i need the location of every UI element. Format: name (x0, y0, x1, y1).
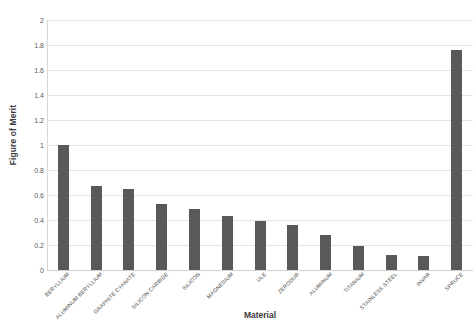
x-axis-tick-label-text: MAGNESIUM (206, 271, 235, 300)
bar (255, 221, 266, 270)
bar (418, 256, 429, 270)
bar (58, 145, 69, 270)
y-axis-tick-label: 0.8 (34, 167, 44, 174)
y-axis-tick-label: 0.4 (34, 217, 44, 224)
bar (451, 50, 462, 270)
bars-layer (47, 20, 473, 270)
x-axis-tick-label-text: ULE (255, 271, 267, 283)
x-axis-title: Material (47, 310, 473, 320)
x-axis-tick-label-text: SILICON (181, 271, 201, 291)
bar (91, 186, 102, 270)
bar (123, 189, 134, 270)
x-axis-tick-label-text: SILICON CARBIDE (130, 271, 169, 310)
bar (353, 246, 364, 270)
y-axis-tick-label: 0.2 (34, 242, 44, 249)
x-axis-tick-label-text: STAINLESS STEEL (359, 271, 399, 311)
y-axis-tick-label: 0.6 (34, 192, 44, 199)
x-axis-tick-label-text: ZERODUR (276, 271, 300, 295)
bar (287, 225, 298, 270)
plot-area (47, 20, 473, 270)
x-axis-tick-label-text: TITANIUM (343, 271, 366, 294)
bar (386, 255, 397, 270)
y-axis-tick-label: 1.4 (34, 92, 44, 99)
y-axis-tick-label: 1.2 (34, 117, 44, 124)
y-axis-tick-label: 1.8 (34, 42, 44, 49)
x-axis-tick-labels: BERYLLIUMALUMINUM BERYLLIUMGRAPHITE CYAN… (47, 271, 473, 311)
bar (222, 216, 233, 270)
x-axis-tick-label-text: ALUMINUM (307, 271, 332, 296)
x-axis-tick-label-text: SPRUCE (443, 271, 464, 292)
x-axis-tick-label-text: INVAR (415, 271, 431, 287)
bar-chart: Figure of Merit 21.81.61.41.210.80.60.40… (0, 0, 475, 330)
y-axis-tick-label: 0 (40, 267, 44, 274)
bar (320, 235, 331, 270)
y-axis-tick-label: 2 (40, 17, 44, 24)
y-axis-title-label: Figure of Merit (8, 105, 18, 166)
y-axis-tick-label: 1.6 (34, 67, 44, 74)
x-axis-tick-label-text: BERYLLIUM (44, 271, 71, 298)
y-axis-tick-labels: 21.81.61.41.210.80.60.40.20 (20, 14, 44, 270)
y-axis-tick-label: 1 (40, 142, 44, 149)
